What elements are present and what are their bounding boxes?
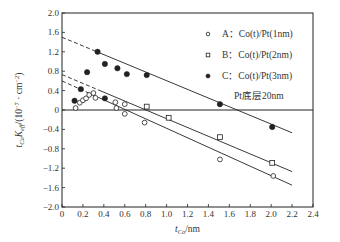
x-tick-label: 0.6 [119,209,131,219]
data-point-c [144,72,149,77]
x-tick-label: 2.4 [307,209,319,219]
x-tick-label: 1.2 [182,209,193,219]
y-axis-title: tCoKeff/(10−7 · cm−2) [13,73,25,148]
data-point-b [144,104,149,109]
y-tick-label: 0 [55,105,60,115]
y-tick-label: −1.2 [43,163,59,173]
legend-filled-circle-icon [206,74,210,78]
data-point-c [102,96,107,101]
legend-label: A：Co(t)/Pt(1nm) [222,29,293,40]
legend: A：Co(t)/Pt(1nm)B：Co(t)/Pt(2nm)C：Co(t)/Pt… [206,29,293,101]
data-point-a [114,106,119,111]
x-axis-title: tCo/nm [175,224,201,235]
data-point-a [73,106,78,111]
data-point-c [84,69,89,74]
x-tick-label: 1.6 [224,209,236,219]
fit-line-solid [99,97,292,185]
data-point-a [113,100,118,105]
legend-label: C：Co(t)/Pt(3nm) [222,71,292,82]
axes: 00.20.40.60.81.01.21.41.61.82.02.22.42.0… [43,8,319,219]
x-tick-label: 1.8 [245,209,257,219]
x-tick-label: 2.2 [286,209,297,219]
legend-open-circle-icon [206,32,210,36]
data-point-a [93,95,98,100]
data-point-c [102,61,107,66]
data-point-a [122,102,127,107]
x-tick-label: 0.4 [98,209,110,219]
y-tick-label: 0.8 [48,66,60,76]
x-tick-label: 0.2 [77,209,88,219]
data-point-b [166,115,171,120]
data-point-c [270,124,275,129]
data-point-a [122,111,127,116]
y-tick-label: −1.6 [43,183,60,193]
data-point-a [218,157,223,162]
data-point-a [142,120,147,125]
fit-line-solid [99,90,292,172]
x-tick-label: 2.0 [266,209,278,219]
annotation-pt-underlayer: Pt底层20nm [234,90,284,101]
x-tick-label: 1.4 [203,209,215,219]
fit-line-dashed [62,37,97,51]
y-tick-label: −0.4 [43,124,60,134]
data-point-c [95,49,100,54]
y-tick-label: 1.2 [48,47,59,57]
x-tick-label: 0.8 [140,209,152,219]
data-point-c [78,86,83,91]
legend-label: B：Co(t)/Pt(2nm) [222,50,292,61]
x-tick-label: 0 [60,209,65,219]
data-point-c [124,71,129,76]
data-point-a [91,91,96,96]
data-point-c [115,66,120,71]
data-point-b [218,135,223,140]
y-tick-label: −0.8 [43,144,60,154]
data-point-c [217,101,222,106]
y-tick-label: −2.0 [43,202,60,212]
y-tick-label: 0.4 [48,86,60,96]
legend-open-square-icon [206,53,210,57]
chart: 00.20.40.60.81.01.21.41.61.82.02.22.42.0… [0,0,340,242]
y-tick-label: 1.6 [48,27,60,37]
data-point-a [271,174,276,179]
x-tick-label: 1.0 [161,209,173,219]
data-point-c [72,98,77,103]
y-tick-label: 2.0 [48,8,60,18]
data-point-b [270,160,275,165]
